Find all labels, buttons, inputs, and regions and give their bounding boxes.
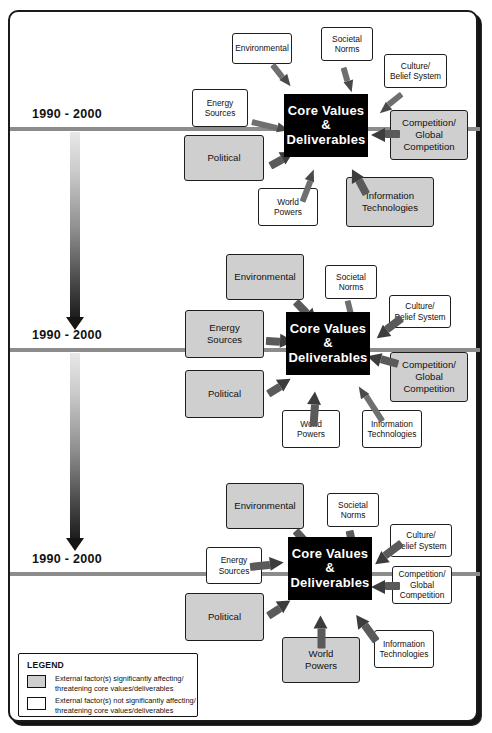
factor-box-information-technologies-3[interactable]: Information Technologies (374, 630, 434, 668)
legend-swatch-not-affecting-icon (27, 697, 46, 710)
timeline-label-1: 1990 - 2000 (32, 107, 102, 121)
arrow-energy-sources-to-core-3 (249, 556, 286, 573)
legend-item-not-affecting: External factor(s) not significantly aff… (27, 696, 196, 716)
factor-box-energy-sources-1[interactable]: Energy Sources (192, 89, 248, 127)
core-line-1: Core Values (292, 547, 369, 562)
arrow-competition-to-core-1 (370, 128, 400, 141)
factor-label: Societal Norms (338, 500, 368, 521)
core-line-3: Deliverables (290, 576, 369, 591)
factor-box-environmental-3[interactable]: Environmental (226, 483, 304, 529)
core-line-1: Core Values (288, 104, 365, 119)
factor-label: Information Technologies (362, 190, 418, 214)
factor-box-political-1[interactable]: Political (184, 135, 264, 181)
factor-label: Societal Norms (336, 272, 366, 293)
core-line-2: & (325, 561, 335, 576)
factor-box-competition-global-competition-2[interactable]: Competition/ Global Competition (390, 352, 468, 402)
core-values-box-3[interactable]: Core Values & Deliverables (288, 537, 372, 600)
factor-box-societal-norms-2[interactable]: Societal Norms (325, 265, 377, 299)
arrow-world-powers-to-core-2 (307, 388, 323, 427)
factor-label: Environmental (234, 500, 295, 512)
timeline-label-3: 1990 - 2000 (32, 552, 102, 566)
factor-box-competition-global-competition-1[interactable]: Competition/ Global Competition (390, 110, 468, 160)
time-progress-arrow-1 (70, 132, 80, 330)
factor-box-environmental-1[interactable]: Environmental (232, 33, 292, 64)
factor-label: World Powers (305, 648, 337, 672)
arrow-societal-norms-to-core-1 (340, 66, 356, 93)
factor-label: Energy Sources (207, 322, 242, 346)
legend-text-not-affecting: External factor(s) not significantly aff… (55, 696, 196, 716)
core-line-3: Deliverables (288, 351, 367, 366)
factor-label: Political (207, 152, 240, 164)
arrow-environmental-to-core-1 (269, 62, 293, 90)
factor-label: Competition/ Global Competition (402, 359, 456, 395)
factor-label: Information Technologies (380, 639, 429, 660)
factor-box-information-technologies-2[interactable]: Information Technologies (362, 410, 422, 448)
factor-box-culture-belief-system-1[interactable]: Culture/ Belief System (384, 54, 447, 88)
core-line-2: & (323, 336, 333, 351)
factor-box-societal-norms-1[interactable]: Societal Norms (321, 27, 373, 61)
factor-label: Political (208, 388, 241, 400)
factor-box-environmental-2[interactable]: Environmental (226, 254, 304, 300)
arrow-shaft (70, 353, 80, 539)
timeline-label-2: 1990 - 2000 (32, 328, 102, 342)
core-values-box-2[interactable]: Core Values & Deliverables (286, 312, 370, 375)
legend-item-affecting: External factor(s) significantly affecti… (27, 674, 183, 694)
factor-box-competition-global-competition-3[interactable]: Competition/ Global Competition (392, 566, 452, 604)
legend-swatch-affecting-icon (27, 675, 46, 688)
arrow-world-powers-to-core-3 (315, 615, 328, 649)
factor-label: Environmental (235, 43, 289, 54)
factor-box-political-3[interactable]: Political (185, 593, 264, 641)
factor-label: Information Technologies (368, 419, 417, 440)
legend-text-affecting: External factor(s) significantly affecti… (55, 674, 183, 694)
factor-label: Societal Norms (332, 34, 362, 55)
factor-label: Environmental (234, 271, 295, 283)
core-line-3: Deliverables (286, 133, 365, 148)
core-line-1: Core Values (290, 322, 367, 337)
factor-label: Culture/ Belief System (390, 61, 441, 82)
arrow-head-icon (66, 538, 84, 551)
arrow-competition-to-core-3 (370, 580, 400, 593)
core-line-2: & (321, 118, 331, 133)
arrow-shaft (70, 132, 80, 318)
factor-label: Competition/ Global Competition (402, 117, 456, 153)
time-progress-arrow-2 (70, 353, 80, 551)
factor-box-political-2[interactable]: Political (185, 370, 264, 418)
diagram-frame: 1990 - 2000 (8, 10, 478, 722)
core-values-box-1[interactable]: Core Values & Deliverables (284, 94, 368, 157)
factor-label: Political (208, 611, 241, 623)
arrow-political-to-core-2 (265, 372, 297, 399)
legend-panel: LEGEND External factor(s) significantly … (18, 653, 198, 717)
factor-label: Competition/ Global Competition (398, 569, 445, 601)
factor-label: Energy Sources (205, 98, 236, 119)
factor-box-energy-sources-2[interactable]: Energy Sources (185, 310, 264, 358)
factor-box-societal-norms-3[interactable]: Societal Norms (327, 493, 379, 527)
factor-label: Energy Sources (219, 555, 250, 576)
legend-title: LEGEND (27, 660, 64, 670)
